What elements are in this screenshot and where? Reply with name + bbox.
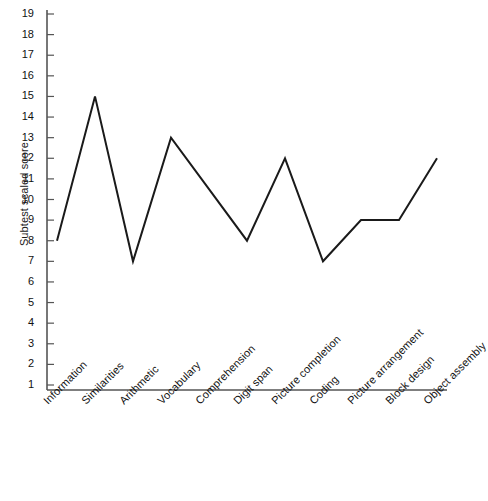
- data-series-line: [57, 96, 437, 261]
- y-axis-ticks: [47, 14, 54, 385]
- axes: [47, 10, 447, 390]
